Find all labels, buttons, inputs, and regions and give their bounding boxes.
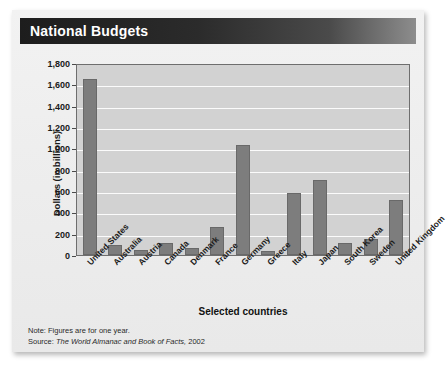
bar-slot	[230, 65, 256, 255]
page-title: National Budgets	[30, 23, 148, 39]
y-tick-label: 1,400	[47, 102, 70, 112]
bar	[313, 180, 327, 255]
y-tick-label: 600	[55, 187, 70, 197]
y-tick-mark	[72, 256, 76, 257]
y-tick-label: 1,600	[47, 80, 70, 90]
bar-slot	[154, 65, 180, 255]
footnote-note: Note: Figures are for one year.	[28, 326, 418, 337]
bar	[83, 79, 97, 255]
bar-slot	[205, 65, 231, 255]
bar-slot	[256, 65, 282, 255]
footnotes: Note: Figures are for one year. Source: …	[28, 326, 418, 348]
footnote-source-year: 2002	[188, 337, 205, 346]
y-tick-label: 800	[55, 166, 70, 176]
y-tick-label: 1,000	[47, 144, 70, 154]
footnote-source: Source: The World Almanac and Book of Fa…	[28, 337, 418, 348]
y-tick-label: 200	[55, 230, 70, 240]
footnote-note-text: Figures are for one year.	[48, 326, 130, 335]
x-axis-title: Selected countries	[76, 306, 410, 317]
bar-slot	[307, 65, 333, 255]
chart-title-bar: National Budgets	[20, 18, 416, 44]
bar-slot	[281, 65, 307, 255]
bar-slot	[179, 65, 205, 255]
chart-panel: National Budgets Dollars (in billions) 0…	[12, 10, 424, 352]
y-tick-label: 1,200	[47, 123, 70, 133]
y-tick-label: 0	[65, 251, 70, 261]
bar-slot	[332, 65, 358, 255]
bar-slot	[77, 65, 103, 255]
chart-body: Dollars (in billions) 02004006008001,000…	[20, 50, 416, 342]
footnote-source-title: The World Almanac and Book of Facts,	[56, 337, 186, 346]
footnote-source-label: Source:	[28, 337, 54, 346]
y-tick-label: 1,800	[47, 59, 70, 69]
bar	[236, 145, 250, 255]
y-tick-label: 400	[55, 208, 70, 218]
footnote-note-label: Note:	[28, 326, 46, 335]
bar-slot	[383, 65, 409, 255]
bar-slot	[128, 65, 154, 255]
y-axis-ticks: 02004006008001,0001,2001,4001,6001,800	[30, 64, 76, 256]
